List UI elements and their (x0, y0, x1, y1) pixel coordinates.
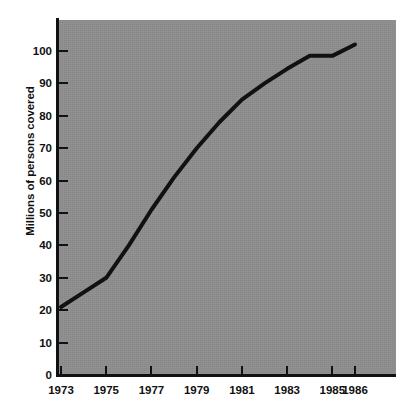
y-tick-mark (59, 309, 68, 311)
x-tick-label: 1975 (82, 384, 130, 396)
x-tick-label: 1979 (173, 384, 221, 396)
y-tick-label-wrap: 20 (0, 304, 52, 316)
y-tick-mark (59, 115, 68, 117)
y-tick-label-wrap: 10 (0, 337, 52, 349)
y-tick-label: 30 (24, 272, 52, 284)
chart-figure: Millions of persons covered 010203040506… (0, 0, 415, 416)
y-tick-label: 100 (24, 45, 52, 57)
paper-grain-overlay (59, 20, 396, 376)
y-tick-mark (59, 180, 68, 182)
x-tick-mark (354, 366, 356, 375)
y-tick-label-wrap: 40 (0, 239, 52, 251)
x-tick-mark (196, 366, 198, 375)
y-tick-mark (59, 212, 68, 214)
y-tick-label-wrap: 60 (0, 175, 52, 187)
x-tick-mark (150, 366, 152, 375)
y-tick-label: 70 (24, 142, 52, 154)
y-axis-title: Millions of persons covered (24, 66, 42, 256)
x-tick-mark (286, 366, 288, 375)
y-tick-mark (59, 244, 68, 246)
x-tick-label: 1977 (127, 384, 175, 396)
y-tick-label: 40 (24, 239, 52, 251)
x-tick-mark (105, 366, 107, 375)
y-tick-label: 20 (24, 304, 52, 316)
x-tick-label: 1981 (218, 384, 266, 396)
y-tick-label-wrap: 80 (0, 110, 52, 122)
x-tick-mark (331, 366, 333, 375)
y-tick-label: 10 (24, 337, 52, 349)
x-tick-label: 1986 (331, 384, 379, 396)
x-tick-mark (241, 366, 243, 375)
y-tick-label: 90 (24, 77, 52, 89)
y-tick-label: 50 (24, 207, 52, 219)
y-tick-label: 60 (24, 175, 52, 187)
plot-area (59, 20, 396, 376)
y-axis-spine (56, 18, 59, 376)
y-tick-label-wrap: 50 (0, 207, 52, 219)
x-tick-label: 1973 (37, 384, 85, 396)
y-tick-mark (59, 82, 68, 84)
y-tick-mark (59, 50, 68, 52)
y-tick-label-wrap: 90 (0, 77, 52, 89)
y-tick-label-wrap: 30 (0, 272, 52, 284)
y-tick-label-wrap: 0 (0, 369, 52, 381)
x-tick-label: 1983 (263, 384, 311, 396)
y-tick-mark (59, 342, 68, 344)
y-tick-mark (59, 147, 68, 149)
x-tick-mark (60, 366, 62, 375)
y-tick-label: 80 (24, 110, 52, 122)
y-tick-label-wrap: 100 (0, 45, 52, 57)
y-tick-label: 0 (24, 369, 52, 381)
y-tick-mark (59, 277, 68, 279)
y-tick-label-wrap: 70 (0, 142, 52, 154)
